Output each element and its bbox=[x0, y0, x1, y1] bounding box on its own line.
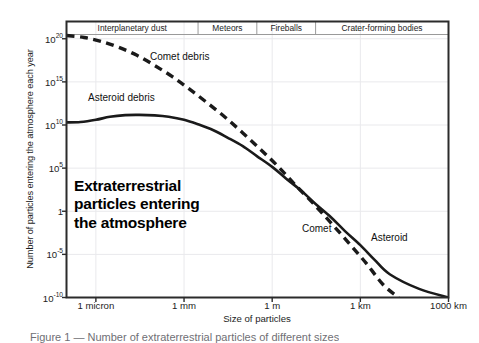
x-axis-title: Size of particles bbox=[66, 313, 448, 324]
category-label: Fireballs bbox=[270, 23, 302, 33]
category-label: Meteors bbox=[212, 23, 242, 33]
series-line-comet-debris bbox=[67, 35, 399, 297]
annotation-asteroid-debris: Asteroid debris bbox=[88, 92, 155, 103]
figure-caption: Figure 1 — Number of extraterrestrial pa… bbox=[30, 331, 339, 343]
x-tick-label: 1 mm bbox=[172, 300, 196, 311]
annotation-comet-debris: Comet debris bbox=[150, 51, 209, 62]
x-tick-label: 1000 km bbox=[430, 300, 467, 311]
x-tick-label: 1 micron bbox=[77, 300, 114, 311]
plot-frame bbox=[67, 22, 449, 298]
annotation-asteroid: Asteroid bbox=[371, 232, 408, 243]
annotation-comet: Comet bbox=[302, 223, 331, 234]
category-label: Crater-forming bodies bbox=[342, 23, 423, 33]
plot-title: Extraterrestrial particles entering the … bbox=[74, 177, 200, 232]
x-tick-label: 1 km bbox=[350, 300, 371, 311]
x-tick-label: 1 m bbox=[264, 300, 280, 311]
category-label: Interplanetary dust bbox=[98, 23, 167, 33]
